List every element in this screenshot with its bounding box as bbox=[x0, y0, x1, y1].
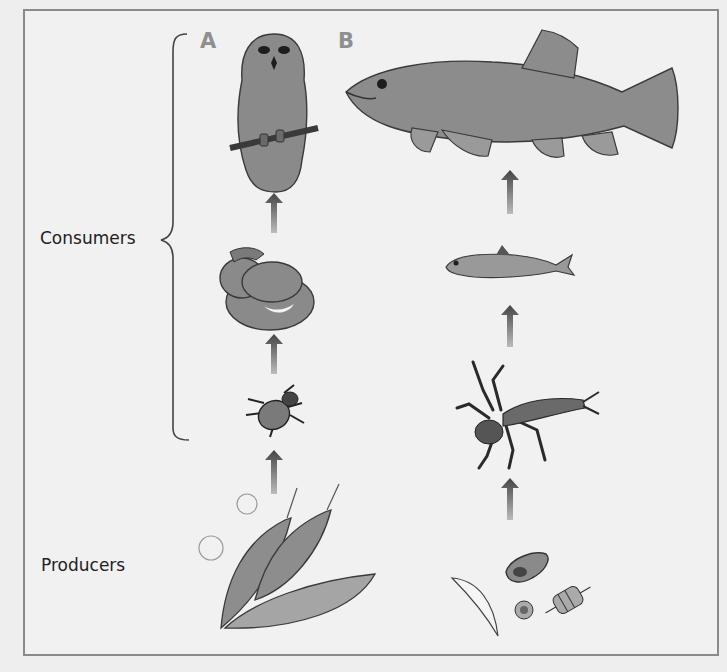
insect-larva-icon bbox=[453, 360, 603, 470]
trout-icon bbox=[342, 28, 687, 163]
leaves-icon bbox=[195, 480, 380, 630]
arrow-up-icon bbox=[501, 305, 519, 347]
arrow-up-icon bbox=[501, 478, 519, 520]
arrow-up-icon bbox=[265, 334, 283, 374]
snake-icon bbox=[212, 244, 320, 332]
arrow-up-icon bbox=[501, 170, 519, 214]
algae-icon bbox=[448, 542, 608, 642]
beetle-icon bbox=[244, 383, 310, 439]
consumers-label: Consumers bbox=[40, 228, 136, 248]
chain-a-label: A bbox=[200, 29, 216, 53]
producers-label: Producers bbox=[41, 555, 125, 575]
small-fish-icon bbox=[444, 243, 576, 283]
arrow-up-icon bbox=[265, 193, 283, 233]
owl-icon bbox=[228, 30, 320, 195]
consumers-brace bbox=[155, 32, 195, 442]
